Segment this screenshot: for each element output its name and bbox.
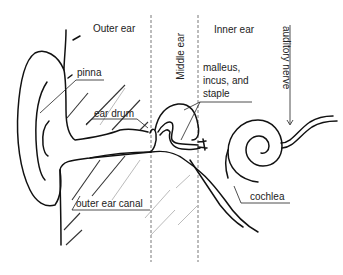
cochlea-label: cochlea bbox=[250, 191, 285, 202]
cochlea-shape bbox=[226, 116, 337, 182]
ossicles-label-line2: incus, and bbox=[203, 75, 249, 86]
auditory-nerve-label: auditory nerve bbox=[281, 26, 292, 90]
outer-ear-canal-label: outer ear canal bbox=[76, 198, 143, 209]
ear-drum-label: ear drum bbox=[94, 108, 134, 119]
middle-ear-heading: Middle ear bbox=[175, 32, 186, 79]
pinna-label: pinna bbox=[77, 67, 102, 78]
ossicles-label-line1: malleus, bbox=[203, 62, 240, 73]
inner-ear-heading: Inner ear bbox=[214, 24, 255, 35]
outer-ear-heading: Outer ear bbox=[93, 23, 136, 34]
ossicles bbox=[150, 104, 207, 152]
ear-anatomy-diagram: Outer ear Middle ear Inner ear bbox=[0, 0, 343, 275]
ossicles-label-line3: staple bbox=[203, 88, 230, 99]
